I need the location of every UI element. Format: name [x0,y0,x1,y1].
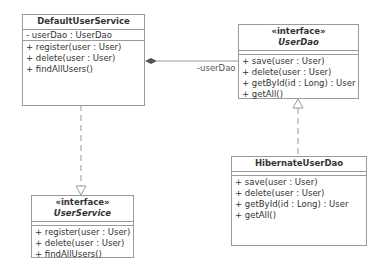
operation: + getById(id : Long) : User [242,78,355,89]
operation: + register(user : User) [35,227,130,238]
attribute: - userDao : UserDao [26,30,141,40]
operations-section: + register(user : User) + delete(user : … [32,226,133,261]
class-user-dao[interactable]: «interface» UserDao + save(user : User) … [238,24,359,99]
operation: + delete(user : User) [235,188,363,199]
operation: + save(user : User) [242,56,355,67]
class-default-user-service[interactable]: DefaultUserService - userDao : UserDao +… [22,14,145,106]
operation: + register(user : User) [26,42,141,53]
class-name: UserDao [241,37,356,48]
class-header: «interface» UserService [32,196,133,222]
stereotype: «interface» [34,197,131,208]
operation: + save(user : User) [235,177,363,188]
operation: + delete(user : User) [242,67,355,78]
operations-section: + save(user : User) + delete(user : User… [232,176,366,222]
operation: + delete(user : User) [35,238,130,249]
class-hibernate-user-dao[interactable]: HibernateUserDao + save(user : User) + d… [231,156,367,246]
operation: + getAll() [242,89,355,100]
operations-section: + save(user : User) + delete(user : User… [239,55,358,101]
class-name: UserService [34,208,131,219]
attributes-section: - userDao : UserDao [23,30,144,41]
class-name: HibernateUserDao [234,158,364,169]
class-header: HibernateUserDao [232,157,366,172]
operations-section: + register(user : User) + delete(user : … [23,41,144,76]
composition-diamond-icon [145,58,157,64]
operation: + getById(id : Long) : User [235,199,363,210]
operation: + findAllUsers() [35,249,130,260]
class-header: «interface» UserDao [239,25,358,51]
operation: + delete(user : User) [26,53,141,64]
operation: + getAll() [235,210,363,221]
operation: + findAllUsers() [26,64,141,75]
realization-arrow-icon [76,186,86,195]
composition-role-label: -userDao [197,63,236,73]
class-name: DefaultUserService [25,16,142,27]
class-user-service[interactable]: «interface» UserService + register(user … [31,195,134,258]
class-header: DefaultUserService [23,15,144,30]
stereotype: «interface» [241,26,356,37]
